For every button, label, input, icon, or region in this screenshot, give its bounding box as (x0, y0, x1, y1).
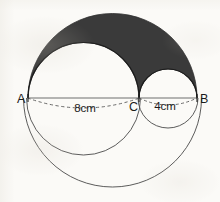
figure-canvas: A C B 8cm 4cm (0, 0, 220, 202)
shaded-arbelos-group (28, 14, 197, 99)
point-label-c: C (129, 100, 138, 114)
point-label-a: A (17, 92, 26, 106)
point-label-b: B (200, 92, 208, 106)
shaded-arbelos-region (28, 14, 197, 99)
length-label-cb: 4cm (154, 100, 176, 112)
geometry-figure: A C B 8cm 4cm (0, 0, 220, 202)
length-label-ac: 8cm (74, 102, 96, 114)
